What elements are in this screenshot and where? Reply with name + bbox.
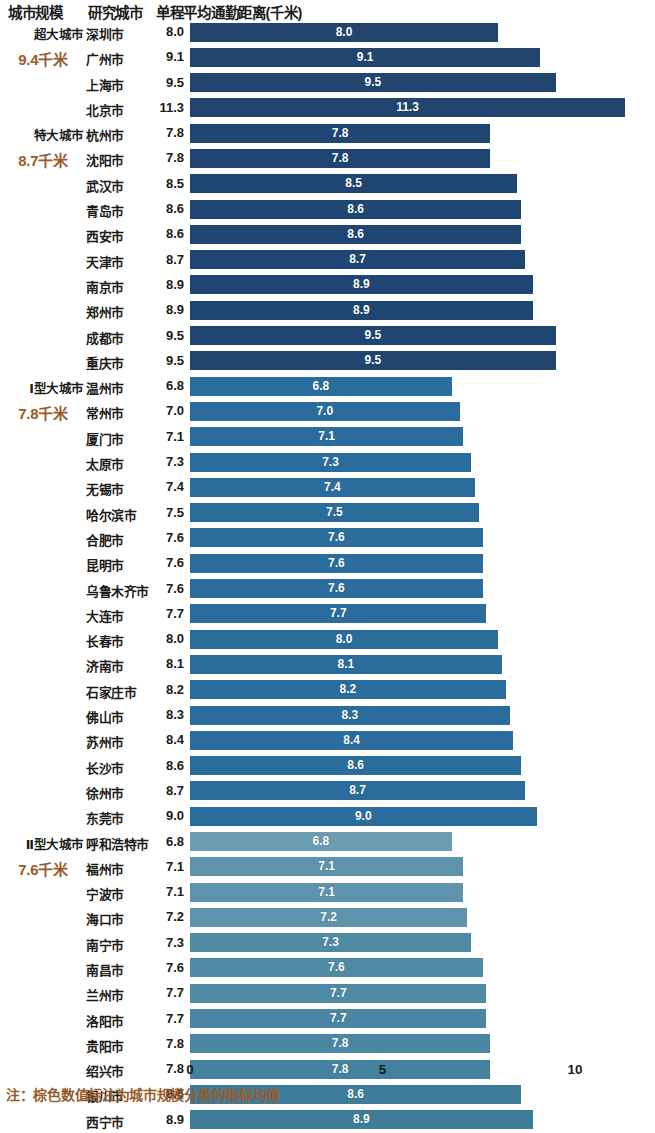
bar: 7.6 bbox=[190, 554, 483, 573]
group-label: 特大城市 bbox=[2, 125, 84, 144]
bar-value-label: 8.1 bbox=[190, 658, 502, 671]
bar-value-label: 8.7 bbox=[190, 784, 525, 797]
group-label: Ⅱ型大城市 bbox=[2, 834, 84, 853]
city-name: 济南市 bbox=[86, 656, 152, 675]
bar: 7.6 bbox=[190, 958, 483, 977]
bar: 8.0 bbox=[190, 23, 498, 42]
row-value: 7.1 bbox=[152, 884, 184, 899]
city-name: 大连市 bbox=[86, 606, 152, 625]
row-value: 7.1 bbox=[152, 429, 184, 444]
table-row: 海口市7.27.2 bbox=[0, 905, 655, 930]
bar: 7.8 bbox=[190, 149, 490, 168]
bar-value-label: 7.8 bbox=[190, 1037, 490, 1050]
table-row: 贵阳市7.87.8 bbox=[0, 1032, 655, 1057]
table-row: 武汉市8.58.5 bbox=[0, 172, 655, 197]
bar-value-label: 8.9 bbox=[190, 304, 533, 317]
city-name: 西宁市 bbox=[86, 1112, 152, 1131]
row-value: 6.8 bbox=[152, 834, 184, 849]
table-header: 城市规模 研究城市 单程平均通勤距离(千米) bbox=[0, 0, 655, 19]
city-name: 武汉市 bbox=[86, 176, 152, 195]
row-value: 8.9 bbox=[152, 1112, 184, 1127]
table-row: 无锡市7.47.4 bbox=[0, 475, 655, 500]
group-mean-value: 7.6千米 bbox=[2, 858, 84, 879]
table-row: 西安市8.68.6 bbox=[0, 222, 655, 247]
table-row: 特大城市杭州市7.87.8 bbox=[0, 121, 655, 146]
header-metric: 单程平均通勤距离(千米) bbox=[156, 1, 302, 22]
table-row: 青岛市8.68.6 bbox=[0, 197, 655, 222]
bar-value-label: 9.1 bbox=[190, 51, 540, 64]
city-name: 杭州市 bbox=[86, 125, 152, 144]
bar-value-label: 7.3 bbox=[190, 456, 471, 469]
bar: 8.0 bbox=[190, 630, 498, 649]
table-row: 上海市9.59.5 bbox=[0, 71, 655, 96]
table-row: 昆明市7.67.6 bbox=[0, 551, 655, 576]
bar: 8.9 bbox=[190, 275, 533, 294]
bar-value-label: 7.7 bbox=[190, 987, 486, 1000]
header-city-scale: 城市规模 bbox=[8, 1, 84, 22]
table-row: 南京市8.98.9 bbox=[0, 273, 655, 298]
row-value: 7.4 bbox=[152, 479, 184, 494]
table-row: 天津市8.78.7 bbox=[0, 248, 655, 273]
row-value: 9.5 bbox=[152, 75, 184, 90]
city-name: 太原市 bbox=[86, 454, 152, 473]
bar: 7.0 bbox=[190, 402, 460, 421]
city-name: 贵阳市 bbox=[86, 1036, 152, 1055]
table-row: 厦门市7.17.1 bbox=[0, 425, 655, 450]
table-row: 合肥市7.67.6 bbox=[0, 526, 655, 551]
city-name: 重庆市 bbox=[86, 353, 152, 372]
bar: 7.5 bbox=[190, 503, 479, 522]
bar-value-label: 7.7 bbox=[190, 1012, 486, 1025]
group-mean-value: 7.8千米 bbox=[2, 402, 84, 423]
bar-value-label: 8.6 bbox=[190, 228, 521, 241]
axis-tick: 10 bbox=[567, 1062, 582, 1077]
row-value: 11.3 bbox=[152, 100, 184, 115]
bar-value-label: 8.9 bbox=[190, 278, 533, 291]
city-name: 乌鲁木齐市 bbox=[86, 581, 152, 600]
bar-value-label: 7.4 bbox=[190, 481, 475, 494]
bar: 6.8 bbox=[190, 377, 452, 396]
group-label: Ⅰ型大城市 bbox=[2, 378, 84, 397]
city-name: 南京市 bbox=[86, 277, 152, 296]
city-name: 苏州市 bbox=[86, 732, 152, 751]
bar: 9.5 bbox=[190, 73, 556, 92]
row-value: 9.0 bbox=[152, 808, 184, 823]
bar-value-label: 7.1 bbox=[190, 886, 463, 899]
table-row: 洛阳市7.77.7 bbox=[0, 1007, 655, 1032]
bar: 7.8 bbox=[190, 1034, 490, 1053]
row-value: 7.3 bbox=[152, 935, 184, 950]
row-value: 9.1 bbox=[152, 49, 184, 64]
table-row: 大连市7.77.7 bbox=[0, 602, 655, 627]
city-name: 洛阳市 bbox=[86, 1011, 152, 1030]
row-value: 7.6 bbox=[152, 960, 184, 975]
bar-value-label: 6.8 bbox=[190, 835, 452, 848]
city-name: 徐州市 bbox=[86, 783, 152, 802]
bar: 7.3 bbox=[190, 453, 471, 472]
city-name: 海口市 bbox=[86, 909, 152, 928]
row-value: 7.8 bbox=[152, 150, 184, 165]
table-row: 8.7千米沈阳市7.87.8 bbox=[0, 146, 655, 171]
axis-tick: 5 bbox=[379, 1062, 387, 1077]
group-label: 超大城市 bbox=[2, 24, 84, 43]
row-value: 7.5 bbox=[152, 505, 184, 520]
city-name: 合肥市 bbox=[86, 530, 152, 549]
row-value: 8.4 bbox=[152, 732, 184, 747]
row-value: 8.9 bbox=[152, 277, 184, 292]
group-mean-value: 8.7千米 bbox=[2, 149, 84, 170]
bar-value-label: 8.2 bbox=[190, 683, 506, 696]
row-value: 7.8 bbox=[152, 125, 184, 140]
row-value: 7.7 bbox=[152, 985, 184, 1000]
city-name: 石家庄市 bbox=[86, 682, 152, 701]
bar: 8.5 bbox=[190, 174, 517, 193]
table-row: 济南市8.18.1 bbox=[0, 652, 655, 677]
city-name: 佛山市 bbox=[86, 707, 152, 726]
bar: 7.3 bbox=[190, 933, 471, 952]
table-row: 超大城市深圳市8.08.0 bbox=[0, 20, 655, 45]
axis-tick: 0 bbox=[186, 1062, 194, 1077]
table-row: Ⅰ型大城市温州市6.86.8 bbox=[0, 374, 655, 399]
bar-value-label: 11.3 bbox=[190, 101, 625, 114]
bar-value-label: 7.6 bbox=[190, 582, 483, 595]
table-row: 徐州市8.78.7 bbox=[0, 779, 655, 804]
table-row: 西宁市8.98.9 bbox=[0, 1108, 655, 1133]
bar-value-label: 7.8 bbox=[190, 152, 490, 165]
